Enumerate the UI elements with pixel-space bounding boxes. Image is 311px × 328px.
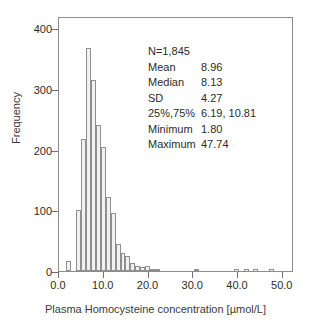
stat-quartiles: 25%,75% 6.19, 10.81 (148, 106, 256, 122)
x-tick-mark (282, 272, 283, 278)
stat-maximum: Maximum 47.74 (148, 137, 256, 153)
stat-sd-value: 4.27 (201, 91, 222, 107)
x-axis-ticks: 0.010.020.030.040.050.0 (58, 272, 293, 302)
stat-quartiles-label: 25%,75% (148, 106, 201, 122)
y-tick-label: 200 (22, 146, 52, 156)
x-tick-label: 30.0 (172, 279, 212, 291)
x-tick-label: 40.0 (217, 279, 257, 291)
histogram-bar (234, 269, 239, 271)
histogram-bar (66, 261, 71, 271)
x-tick-mark (192, 272, 193, 278)
stat-median-value: 8.13 (201, 75, 222, 91)
y-axis-title: Frequency (10, 58, 22, 178)
stat-mean: Mean 8.96 (148, 60, 256, 76)
histogram-bar (269, 269, 274, 271)
y-tick-label: 0 (22, 267, 52, 277)
stat-median: Median 8.13 (148, 75, 256, 91)
x-tick-mark (58, 272, 59, 278)
stat-mean-value: 8.96 (201, 60, 222, 76)
stat-minimum-label: Minimum (148, 122, 201, 138)
y-tick-label: 400 (22, 24, 52, 34)
histogram-bar (155, 269, 160, 271)
histogram-bar (244, 269, 249, 271)
stat-minimum: Minimum 1.80 (148, 122, 256, 138)
histogram-figure: Frequency 0100200300400 0.010.020.030.04… (0, 0, 311, 328)
stat-maximum-label: Maximum (148, 137, 201, 153)
stat-quartiles-value: 6.19, 10.81 (201, 106, 256, 122)
x-tick-mark (148, 272, 149, 278)
x-tick-label: 50.0 (262, 279, 302, 291)
y-tick-label: 100 (22, 206, 52, 216)
x-tick-label: 10.0 (83, 279, 123, 291)
stat-sd-label: SD (148, 91, 201, 107)
x-tick-mark (103, 272, 104, 278)
stat-n: N=1,845 (148, 44, 256, 60)
x-tick-label: 0.0 (38, 279, 78, 291)
histogram-bar (253, 269, 258, 271)
stat-sd: SD 4.27 (148, 91, 256, 107)
statistics-annotation: N=1,845 Mean 8.96 Median 8.13 SD 4.27 25… (148, 44, 256, 153)
stat-minimum-value: 1.80 (201, 122, 222, 138)
histogram-bar (194, 269, 199, 271)
stat-median-label: Median (148, 75, 201, 91)
stat-maximum-value: 47.74 (201, 137, 229, 153)
stat-mean-label: Mean (148, 60, 201, 76)
x-axis-title: Plasma Homocysteine concentration [µmol/… (0, 303, 311, 315)
x-tick-label: 20.0 (128, 279, 168, 291)
y-tick-label: 300 (22, 85, 52, 95)
x-tick-mark (237, 272, 238, 278)
